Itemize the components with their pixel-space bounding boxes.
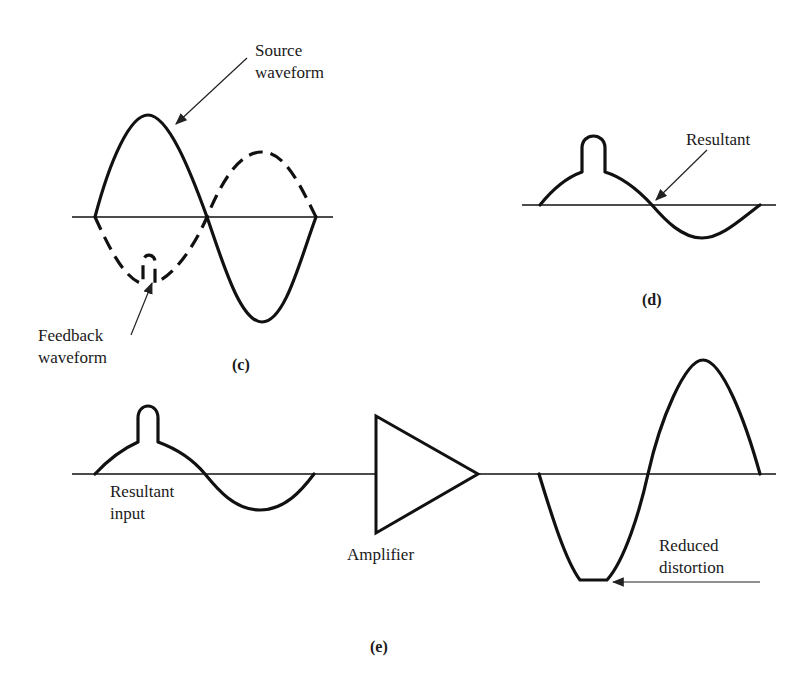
amplifier-icon <box>376 416 478 533</box>
amplifier-label: Amplifier <box>347 545 414 564</box>
resultant-label: Resultant <box>686 130 750 149</box>
feedback-label-line1: Feedback <box>38 326 104 345</box>
source-label-line2: waveform <box>255 63 324 82</box>
resultant-input-label-line2: input <box>110 504 145 523</box>
output-waveform <box>539 360 760 580</box>
resultant-arrow <box>656 150 707 200</box>
negative-feedback-diagram: Source waveform Feedback waveform (c) Re… <box>0 0 810 680</box>
caption-d: (d) <box>642 291 662 309</box>
resultant-input-label-line1: Resultant <box>110 482 174 501</box>
feedback-label-line2: waveform <box>38 348 107 367</box>
feedback-arrow <box>131 283 152 335</box>
reduced-distortion-label-line1: Reduced <box>659 536 719 555</box>
panel-c: Source waveform Feedback waveform (c) <box>38 41 333 374</box>
caption-c: (c) <box>232 356 250 374</box>
panel-e: Resultant input Amplifier Reduced distor… <box>72 360 776 656</box>
reduced-distortion-label-line2: distortion <box>659 558 725 577</box>
source-label-line1: Source <box>255 41 302 60</box>
panel-d: Resultant (d) <box>522 130 776 309</box>
source-arrow <box>176 58 247 124</box>
resultant-waveform <box>540 136 760 238</box>
caption-e: (e) <box>370 638 388 656</box>
